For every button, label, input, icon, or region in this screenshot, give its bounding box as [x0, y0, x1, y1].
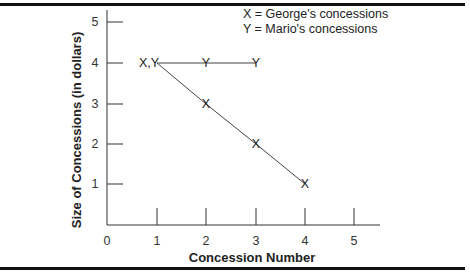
- x-axis-label: Concession Number: [189, 250, 315, 265]
- y-axis-label: Size of Concessions (in dollars): [69, 32, 84, 228]
- y-tick-label: 3: [92, 97, 99, 111]
- x-tick-label: 0: [104, 234, 111, 248]
- x-ticks: [157, 208, 354, 225]
- marker-x: X: [252, 137, 260, 151]
- marker-xy-combined: X,Y: [139, 56, 159, 70]
- legend-item-mario: Y = Mario's concessions: [243, 22, 388, 37]
- george-series-line: [157, 63, 305, 184]
- y-tick-label: 2: [92, 137, 99, 151]
- marker-x: X: [301, 177, 309, 191]
- chart-legend: X = George's concessions Y = Mario's con…: [243, 7, 388, 37]
- marker-y: Y: [202, 56, 210, 70]
- x-tick-label: 1: [154, 234, 161, 248]
- y-tick-label: 1: [92, 177, 99, 191]
- legend-item-george: X = George's concessions: [243, 7, 388, 22]
- y-tick-label: 4: [92, 56, 99, 70]
- x-tick-label: 4: [302, 234, 309, 248]
- x-tick-label: 2: [203, 234, 210, 248]
- x-tick-label: 5: [351, 234, 358, 248]
- x-tick-label: 3: [253, 234, 260, 248]
- y-ticks: [107, 22, 123, 184]
- marker-x: X: [202, 97, 210, 111]
- y-tick-label: 5: [92, 15, 99, 29]
- marker-y: Y: [252, 56, 260, 70]
